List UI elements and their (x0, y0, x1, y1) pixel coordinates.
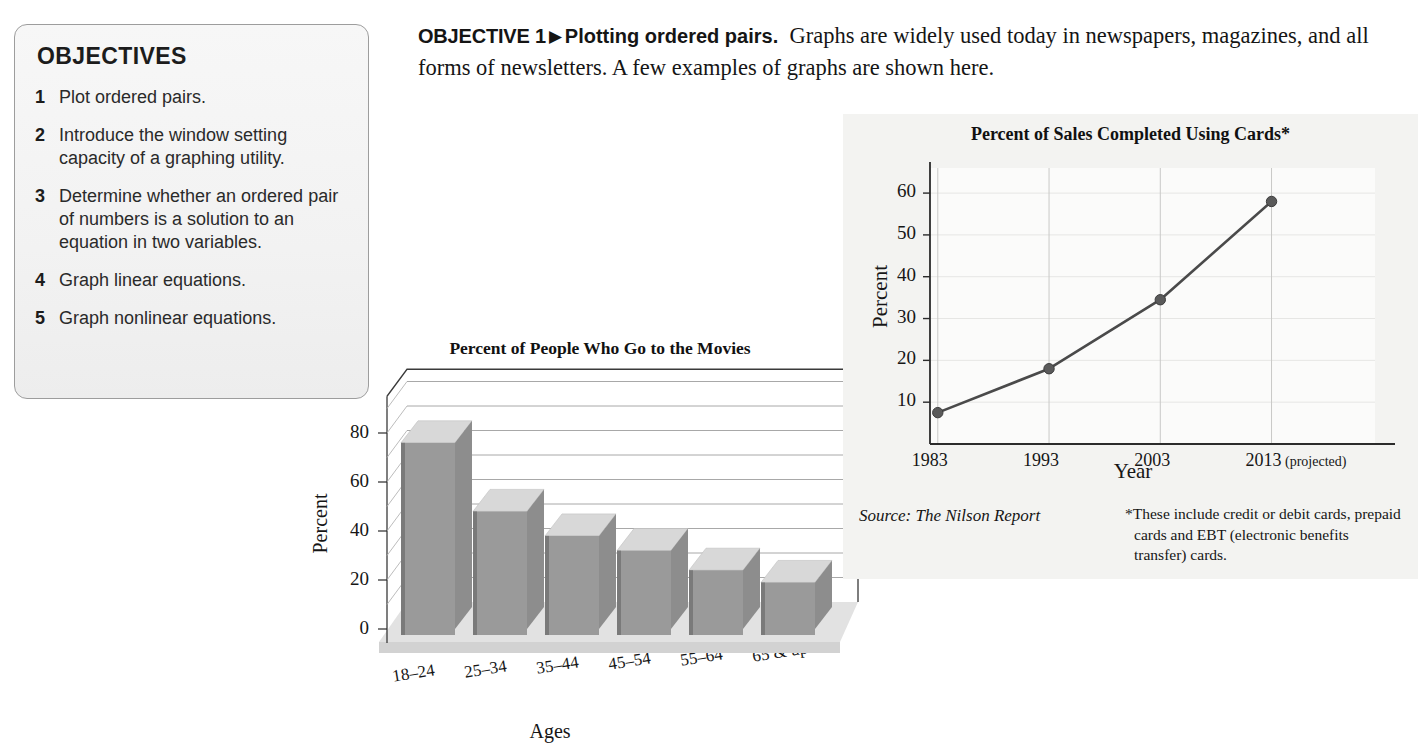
objective-item-4: 4 Graph linear equations. (35, 269, 350, 292)
objective-number: 3 (35, 185, 59, 254)
line-chart-title: Percent of Sales Completed Using Cards* (843, 124, 1418, 145)
objective-text: Determine whether an ordered pair of num… (59, 185, 350, 254)
line-chart-panel-cards: Percent of Sales Completed Using Cards* … (843, 114, 1418, 579)
bar-chart-plot-area (290, 332, 860, 750)
objective-number: 1 (35, 86, 59, 109)
objective-text: Introduce the window setting capacity of… (59, 124, 350, 170)
objective-number: 5 (35, 307, 59, 330)
objective-item-5: 5 Graph nonlinear equations. (35, 307, 350, 330)
objective-text: Graph nonlinear equations. (59, 307, 276, 330)
line-chart-plot-area (843, 144, 1418, 504)
objective-label: OBJECTIVE 1 (418, 25, 546, 47)
line-chart-footnote: *These include credit or debit cards, pr… (1125, 504, 1404, 566)
objective-lead-text: Plotting ordered pairs. (565, 25, 778, 47)
objective-text: Graph linear equations. (59, 269, 246, 292)
objective-number: 4 (35, 269, 59, 292)
objective-text: Plot ordered pairs. (59, 86, 206, 109)
objectives-title: OBJECTIVES (37, 43, 350, 70)
triangle-right-icon: ▶ (546, 27, 565, 46)
objective-header-paragraph: OBJECTIVE 1▶Plotting ordered pairs. Grap… (418, 20, 1408, 84)
objective-number: 2 (35, 124, 59, 170)
line-chart-source: Source: The Nilson Report (859, 506, 1040, 526)
objective-item-1: 1 Plot ordered pairs. (35, 86, 350, 109)
objective-item-3: 3 Determine whether an ordered pair of n… (35, 185, 350, 254)
objective-item-2: 2 Introduce the window setting capacity … (35, 124, 350, 170)
bar-chart-movies: Percent of People Who Go to the Movies P… (290, 332, 860, 750)
